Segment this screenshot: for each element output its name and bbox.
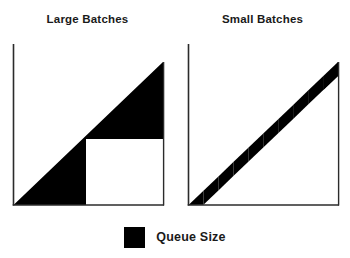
figure: Large Batches Small Batches [0, 0, 350, 258]
legend: Queue Size [0, 216, 350, 258]
queue-area-large-batches [14, 62, 164, 205]
legend-swatch-queue-size [124, 227, 145, 248]
chart-small-batches [175, 0, 350, 216]
chart-large-batches [0, 0, 175, 216]
legend-label-queue-size: Queue Size [156, 230, 225, 244]
panel-large-batches: Large Batches [0, 0, 175, 216]
sawtooth-teeth [189, 62, 339, 205]
panel-small-batches: Small Batches [175, 0, 350, 216]
